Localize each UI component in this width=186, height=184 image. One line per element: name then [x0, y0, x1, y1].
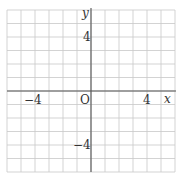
y-axis-label: y: [82, 7, 89, 19]
y-tick-label-neg4: −4: [73, 139, 91, 151]
x-tick-label-neg4: −4: [24, 94, 42, 106]
x-tick-label-4: 4: [143, 94, 151, 106]
origin-label: O: [80, 94, 90, 106]
coordinate-plane: [0, 0, 186, 184]
y-tick-label-4: 4: [83, 31, 91, 43]
x-axis-label: x: [164, 93, 171, 105]
